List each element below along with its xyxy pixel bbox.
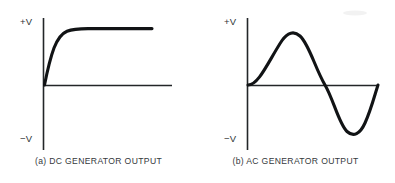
ac-axis-label-positive: +V bbox=[224, 16, 237, 27]
panel-ac-generator-output: +V −V (b) AC GENERATOR OUTPUT bbox=[197, 0, 394, 183]
ac-panel-caption: (b) AC GENERATOR OUTPUT bbox=[197, 156, 394, 166]
panel-dc-generator-output: +V −V (a) DC GENERATOR OUTPUT bbox=[0, 0, 197, 183]
dc-axis-label-positive: +V bbox=[20, 16, 33, 27]
dc-panel-caption: (a) DC GENERATOR OUTPUT bbox=[0, 156, 197, 166]
dc-plot: +V −V bbox=[0, 0, 197, 158]
ac-axis-label-negative: −V bbox=[224, 133, 237, 144]
dc-axis-label-negative: −V bbox=[20, 133, 33, 144]
paper-speck bbox=[343, 11, 367, 16]
waveform-figure: +V −V (a) DC GENERATOR OUTPUT +V −V (b) … bbox=[0, 0, 395, 183]
ac-plot: +V −V bbox=[197, 0, 394, 158]
